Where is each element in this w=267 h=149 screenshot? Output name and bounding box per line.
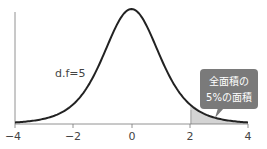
svg-text:4: 4 bbox=[245, 130, 252, 143]
t-distribution-chart: −4 −2 0 2 4 d.f=5 全面積の 5%の面積 bbox=[0, 0, 267, 149]
svg-text:0: 0 bbox=[129, 130, 136, 143]
callout-box: 全面積の 5%の面積 bbox=[200, 69, 258, 118]
svg-text:−2: −2 bbox=[65, 130, 81, 143]
x-ticks bbox=[15, 124, 248, 128]
svg-text:5%の面積: 5%の面積 bbox=[206, 91, 252, 103]
svg-text:−4: −4 bbox=[5, 130, 21, 143]
df-label: d.f=5 bbox=[55, 67, 86, 80]
x-tick-labels: −4 −2 0 2 4 bbox=[5, 130, 252, 143]
svg-text:2: 2 bbox=[187, 130, 194, 143]
svg-text:全面積の: 全面積の bbox=[209, 75, 249, 87]
